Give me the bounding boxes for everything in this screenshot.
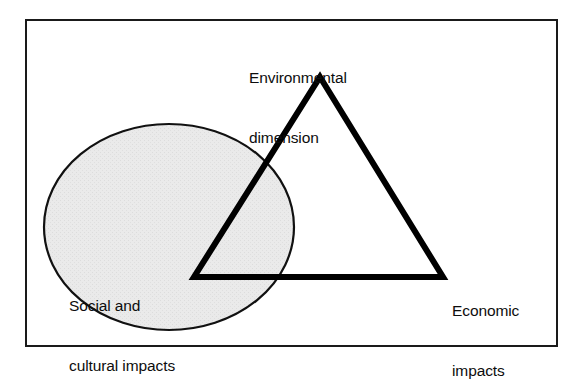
social-label-line-2: cultural impacts xyxy=(69,356,175,376)
social-label-line-1: Social and xyxy=(69,296,175,316)
social-cultural-impacts-label: Social and cultural impacts xyxy=(69,256,175,383)
environmental-dimension-label: Environmental dimension xyxy=(249,28,347,188)
environmental-label-line-2: dimension xyxy=(249,128,347,148)
economic-label-line-2: impacts xyxy=(452,361,519,381)
economic-impacts-label: Economic impacts xyxy=(452,261,519,383)
economic-label-line-1: Economic xyxy=(452,301,519,321)
environmental-label-line-1: Environmental xyxy=(249,68,347,88)
